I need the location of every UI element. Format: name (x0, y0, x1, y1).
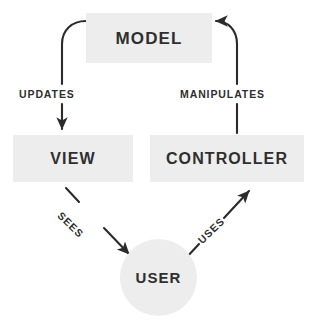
edge-sees-upper-path (66, 188, 79, 202)
node-controller-label: CONTROLLER (166, 151, 288, 167)
edge-updates-path (62, 21, 86, 84)
edge-manipulates-arrow-path (216, 21, 237, 84)
edge-uses-arrow-path (224, 191, 249, 218)
edge-sees-arrow-path (104, 228, 129, 254)
node-controller[interactable]: CONTROLLER (150, 135, 304, 182)
edge-label-manipulates: MANIPULATES (178, 88, 267, 101)
node-view[interactable]: VIEW (13, 135, 133, 182)
edge-label-updates: UPDATES (17, 88, 77, 101)
node-model[interactable]: MODEL (86, 13, 212, 63)
mvc-diagram: MODEL VIEW CONTROLLER USER UPDATES MANIP… (0, 0, 313, 323)
node-view-label: VIEW (50, 151, 95, 167)
node-user[interactable]: USER (120, 239, 197, 316)
node-user-label: USER (135, 270, 181, 285)
node-model-label: MODEL (116, 30, 183, 47)
